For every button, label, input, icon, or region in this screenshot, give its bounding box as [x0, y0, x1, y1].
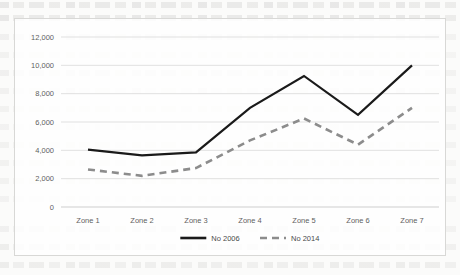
legend-label: No 2006: [211, 234, 239, 243]
scan-bleed-text-row: [0, 2, 460, 8]
y-axis-tick-label: 8,000: [35, 89, 54, 98]
x-axis-tick-label: Zone 1: [76, 216, 99, 225]
chart-legend: No 2006No 2014: [180, 234, 319, 243]
y-axis-tick-label: 4,000: [35, 146, 54, 155]
y-axis-tick-label: 10,000: [31, 61, 54, 70]
x-axis-tick-label: Zone 5: [292, 216, 315, 225]
y-axis-tick-label: 6,000: [35, 118, 54, 127]
x-axis-tick-label: Zone 7: [400, 216, 423, 225]
chart-container: 02,0004,0006,0008,00010,00012,000 Zone 1…: [14, 18, 446, 256]
x-axis-tick-label: Zone 2: [130, 216, 153, 225]
x-axis-tick-label: Zone 4: [238, 216, 261, 225]
scan-bleed-text-row: [0, 262, 460, 268]
x-axis-tick-label: Zone 6: [346, 216, 369, 225]
y-axis-tick-label: 2,000: [35, 174, 54, 183]
legend-label: No 2014: [291, 234, 319, 243]
y-axis-tick-label: 0: [50, 203, 54, 212]
series-line-no-2014: [88, 108, 412, 176]
gridline-group: [61, 37, 439, 207]
series-group: [88, 65, 412, 176]
y-axis-tick-label: 12,000: [31, 33, 54, 42]
x-axis-tick-labels: Zone 1Zone 2Zone 3Zone 4Zone 5Zone 6Zone…: [76, 216, 423, 225]
x-axis-tick-label: Zone 3: [184, 216, 207, 225]
y-axis-tick-labels: 02,0004,0006,0008,00010,00012,000: [31, 33, 54, 212]
line-chart: 02,0004,0006,0008,00010,00012,000 Zone 1…: [15, 19, 447, 257]
